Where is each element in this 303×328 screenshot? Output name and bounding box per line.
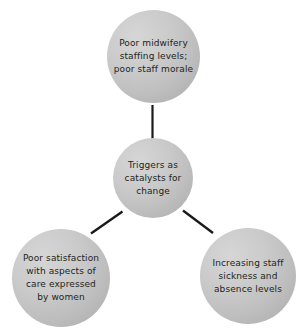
node-label-center: Triggers as catalysts for change (121, 159, 186, 198)
node-label-bottom-left: Poor satisfaction with aspects of care e… (19, 252, 103, 304)
diagram-canvas: Poor midwifery staffing levels; poor sta… (0, 0, 303, 328)
node-poor-satisfaction-with-care[interactable]: Poor satisfaction with aspects of care e… (12, 229, 110, 327)
node-increasing-staff-sickness[interactable]: Increasing staff sickness and absence le… (200, 228, 296, 324)
node-label-top: Poor midwifery staffing levels; poor sta… (110, 37, 197, 76)
node-triggers-as-catalysts-for-change[interactable]: Triggers as catalysts for change (113, 138, 193, 218)
node-poor-midwifery-staffing[interactable]: Poor midwifery staffing levels; poor sta… (107, 10, 200, 103)
node-label-bottom-right: Increasing staff sickness and absence le… (209, 257, 288, 296)
connector-center-to-bottom-left (91, 212, 123, 234)
connector-center-to-bottom-right (183, 211, 213, 234)
